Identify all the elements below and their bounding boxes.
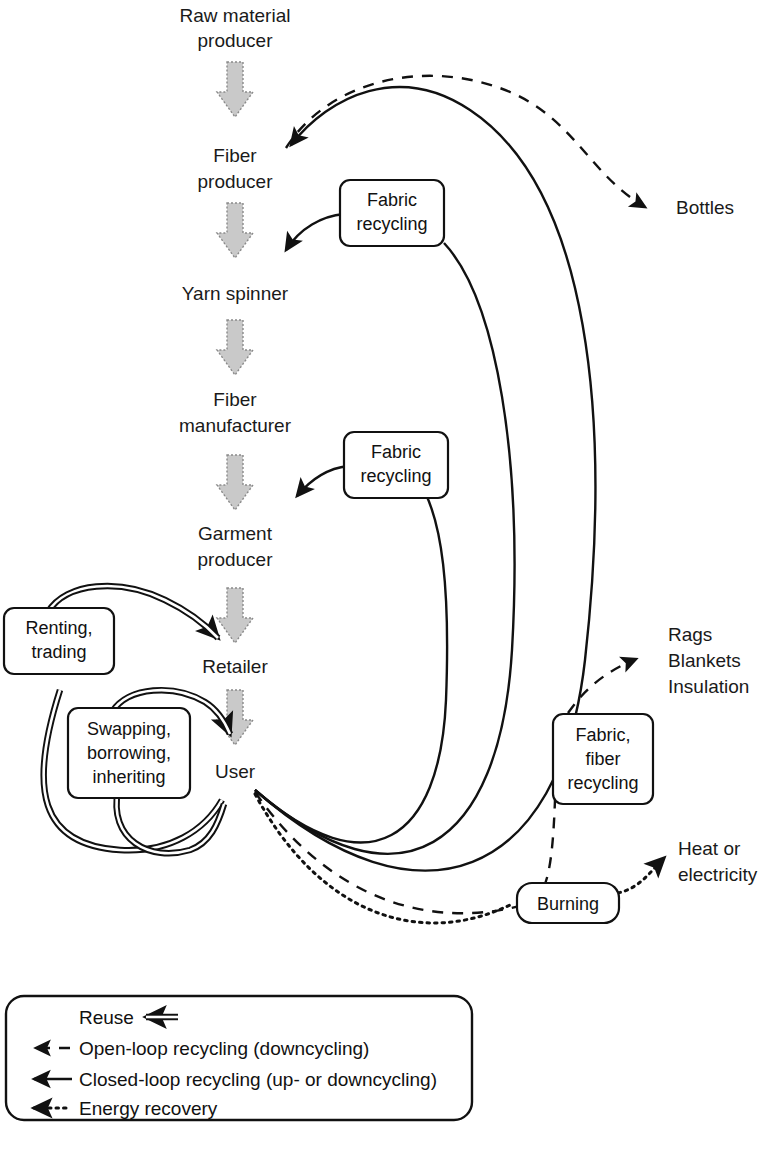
process-box-swapping[interactable]: Swapping, borrowing, inheriting — [68, 708, 190, 798]
flow-diagram-svg: Renting, trading Swapping, borrowing, in… — [0, 0, 772, 1149]
process-box-fabric-fiber-recycling-line-1: Fabric, — [575, 725, 630, 745]
legend-item-energy-recovery-label: Energy recovery — [79, 1098, 218, 1119]
process-box-fabric-fiber-recycling-line-2: fiber — [585, 749, 620, 769]
process-box-swapping-line-2: borrowing, — [87, 743, 171, 763]
chain-node-yarn-spinner: Yarn spinner — [182, 283, 289, 304]
output-label-bottles-line-1: Bottles — [676, 197, 734, 218]
diagram-canvas: Renting, trading Swapping, borrowing, in… — [0, 0, 772, 1149]
curve-fabric-recycling-1-to-yarn — [286, 214, 344, 250]
chain-node-user-line-1: User — [215, 761, 256, 782]
legend-item-open-loop-label: Open-loop recycling (downcycling) — [79, 1038, 369, 1059]
output-label-rags-line-3: Insulation — [668, 676, 749, 697]
process-box-renting[interactable]: Renting, trading — [4, 608, 114, 674]
output-label-heat-line-2: electricity — [678, 864, 758, 885]
chain-node-fiber-producer: Fiber producer — [198, 145, 274, 192]
output-label-bottles: Bottles — [676, 197, 734, 218]
chain-node-fiber-producer-line-2: producer — [198, 171, 274, 192]
legend: Reuse Open-loop recycling (downcycling) … — [6, 996, 472, 1120]
legend-item-open-loop: Open-loop recycling (downcycling) — [36, 1038, 369, 1059]
legend-item-closed-loop-label: Closed-loop recycling (up- or downcyclin… — [79, 1069, 437, 1090]
output-label-rags-line-2: Blankets — [668, 650, 741, 671]
chain-node-garment-producer: Garment producer — [198, 523, 274, 570]
chain-node-yarn-spinner-line-1: Yarn spinner — [182, 283, 289, 304]
process-box-fabric-recycling-2[interactable]: Fabric recycling — [344, 432, 448, 498]
process-box-swapping-line-1: Swapping, — [87, 719, 171, 739]
gray-arrow-yarn-to-fibermanufacturer — [217, 320, 253, 375]
curve-user-to-fabric-recycling-2 — [255, 479, 447, 842]
gray-arrow-raw-to-fiberproducer — [217, 62, 253, 117]
chain-node-fiber-manufacturer-line-2: manufacturer — [179, 415, 292, 436]
chain-node-fiber-manufacturer-line-1: Fiber — [213, 389, 257, 410]
gray-arrow-fibermanufacturer-to-garment — [217, 455, 253, 510]
chain-node-garment-producer-line-1: Garment — [198, 523, 273, 544]
chain-node-user: User — [215, 761, 256, 782]
chain-node-raw-material-producer-line-2: producer — [198, 30, 274, 51]
process-box-burning-line-1: Burning — [537, 894, 599, 914]
process-box-fabric-fiber-recycling-line-3: recycling — [567, 773, 638, 793]
output-label-heat-line-1: Heat or — [678, 838, 741, 859]
chain-node-raw-material-producer-line-1: Raw material — [180, 5, 291, 26]
output-label-rags: Rags Blankets Insulation — [668, 624, 749, 697]
chain-node-fiber-producer-line-1: Fiber — [213, 145, 257, 166]
process-box-fabric-recycling-2-line-2: recycling — [360, 466, 431, 486]
chain-node-garment-producer-line-2: producer — [198, 549, 274, 570]
process-box-fabric-recycling-2-line-1: Fabric — [371, 442, 421, 462]
chain-node-retailer: Retailer — [202, 656, 268, 677]
curve-burning-to-heat — [618, 858, 664, 893]
curve-fabric-recycling-2-to-garment — [297, 466, 348, 496]
process-box-fabric-recycling-1[interactable]: Fabric recycling — [340, 180, 444, 246]
output-label-rags-line-1: Rags — [668, 624, 712, 645]
gray-arrow-fiberproducer-to-yarn — [217, 203, 253, 258]
process-box-swapping-line-3: inheriting — [92, 767, 165, 787]
curve-user-to-burning — [255, 794, 510, 923]
process-box-burning[interactable]: Burning — [517, 883, 619, 923]
process-box-fabric-recycling-1-line-1: Fabric — [367, 190, 417, 210]
chain-node-fiber-manufacturer: Fiber manufacturer — [179, 389, 292, 436]
curve-user-to-fabric-recycling-1 — [255, 243, 514, 854]
legend-item-reuse-label: Reuse — [79, 1007, 134, 1028]
process-box-renting-line-1: Renting, — [25, 618, 92, 638]
process-box-fabric-fiber-recycling[interactable]: Fabric, fiber recycling — [553, 714, 653, 804]
gray-arrow-garment-to-retailer — [217, 588, 253, 643]
process-box-fabric-recycling-1-line-2: recycling — [356, 214, 427, 234]
chain-node-retailer-line-1: Retailer — [202, 656, 268, 677]
process-box-renting-line-2: trading — [31, 642, 86, 662]
legend-item-closed-loop: Closed-loop recycling (up- or downcyclin… — [34, 1069, 437, 1090]
chain-node-raw-material-producer: Raw material producer — [180, 5, 291, 51]
output-label-heat: Heat or electricity — [678, 838, 758, 885]
